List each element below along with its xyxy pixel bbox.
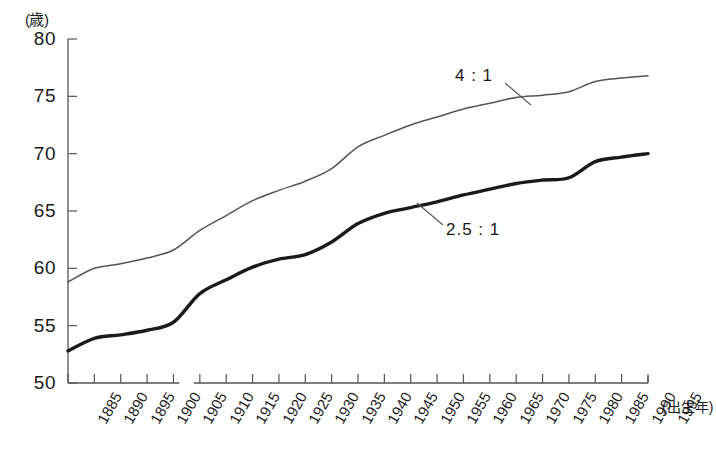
y-axis-tick-65: 65 (14, 200, 56, 222)
y-axis-tick-80: 80 (14, 28, 56, 50)
series-label-4-1: 4 : 1 (455, 66, 493, 86)
y-axis-tick-60: 60 (14, 257, 56, 279)
y-axis-tick-70: 70 (14, 143, 56, 165)
series-line-2p5-1 (68, 154, 648, 351)
chart-axes (68, 39, 648, 383)
chart-figure: (歳) 50556065707580 188518901895190019051… (0, 0, 716, 461)
y-axis-tick-75: 75 (14, 85, 56, 107)
series-label-2p5-1: 2.5 : 1 (446, 220, 500, 240)
x-axis-unit-label: (出生年) (662, 396, 713, 416)
y-axis-tick-50: 50 (14, 372, 56, 394)
y-axis-tick-55: 55 (14, 315, 56, 337)
chart-series-layer (68, 76, 648, 351)
